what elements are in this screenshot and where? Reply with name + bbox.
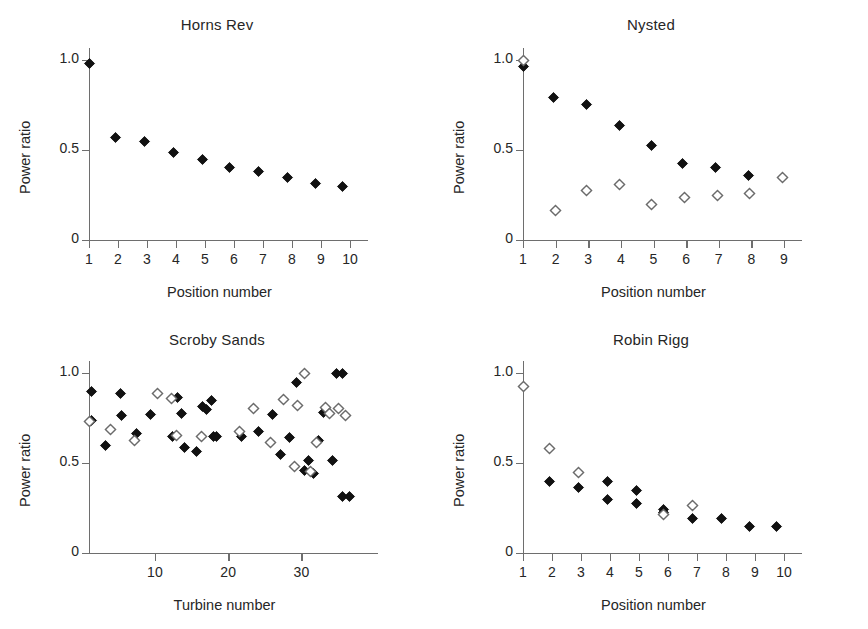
data-point-observed [84, 58, 95, 69]
data-point-filled [646, 140, 657, 151]
panel-nysted: Nysted00.51.0123456789Power ratioPositio… [434, 0, 868, 314]
data-point-open [292, 400, 303, 411]
data-point-open [518, 381, 529, 392]
data-point-observed [139, 136, 150, 147]
data-point-open [248, 403, 259, 414]
data-point-observed [224, 162, 235, 173]
y-tick-label: 0.5 [459, 140, 513, 156]
data-point-observed [197, 154, 208, 165]
data-point-filled [284, 432, 295, 443]
x-tick [588, 241, 589, 248]
data-point-filled [115, 388, 126, 399]
y-tick [82, 373, 89, 374]
data-point-filled [544, 476, 555, 487]
data-point-open [278, 394, 289, 405]
data-point-open [744, 188, 755, 199]
data-point-open [679, 192, 690, 203]
x-tick-label: 10 [764, 564, 804, 580]
y-tick [82, 150, 89, 151]
x-tick [639, 554, 640, 561]
data-point-filled [176, 408, 187, 419]
data-point-open [299, 368, 310, 379]
y-tick-label: 1.0 [25, 363, 79, 379]
x-tick-label: 9 [764, 251, 804, 267]
x-tick [784, 241, 785, 248]
data-point-filled [267, 409, 278, 420]
x-tick [556, 241, 557, 248]
y-axis-line [89, 48, 90, 241]
data-point-filled [716, 513, 727, 524]
data-point-open [687, 500, 698, 511]
y-tick [516, 373, 523, 374]
x-tick [263, 241, 264, 248]
data-point-open [712, 190, 723, 201]
data-point-open [305, 466, 316, 477]
y-tick [82, 553, 89, 554]
y-tick-label: 0.5 [25, 140, 79, 156]
y-tick-label: 1.0 [459, 50, 513, 66]
x-tick [89, 241, 90, 248]
data-point-filled [337, 368, 348, 379]
data-point-filled [631, 485, 642, 496]
x-tick [176, 241, 177, 248]
x-axis-line [523, 553, 802, 554]
data-point-filled [344, 491, 355, 502]
data-point-observed [110, 132, 121, 143]
panel-scroby-sands: Scroby Sands00.51.0102030Power ratioTurb… [0, 315, 434, 629]
data-point-filled [86, 386, 97, 397]
data-point-open [311, 437, 322, 448]
x-tick-label: 30 [281, 564, 321, 580]
y-tick-label: 0 [459, 230, 513, 246]
data-point-filled [303, 455, 314, 466]
panel-title: Scroby Sands [0, 331, 434, 348]
data-point-open [171, 430, 182, 441]
y-tick [516, 240, 523, 241]
x-tick [552, 554, 553, 561]
x-tick [719, 241, 720, 248]
data-point-observed [282, 172, 293, 183]
x-tick [205, 241, 206, 248]
data-point-open [129, 435, 140, 446]
x-axis-line [89, 240, 368, 241]
y-axis-line [523, 48, 524, 241]
data-point-open [581, 185, 592, 196]
x-tick [118, 241, 119, 248]
y-tick-label: 0.5 [25, 453, 79, 469]
y-tick [82, 240, 89, 241]
x-axis-line [523, 240, 802, 241]
data-point-open [289, 461, 300, 472]
data-point-filled [687, 513, 698, 524]
x-tick [654, 241, 655, 248]
x-tick [581, 554, 582, 561]
x-tick [350, 241, 351, 248]
x-axis-label: Turbine number [59, 597, 390, 613]
figure-multi-panel-scatter: Horns Rev00.51.012345678910Power ratioPo… [0, 0, 868, 629]
panel-title: Robin Rigg [434, 331, 868, 348]
panel-horns-rev: Horns Rev00.51.012345678910Power ratioPo… [0, 0, 434, 314]
data-point-open [234, 426, 245, 437]
data-point-filled [677, 158, 688, 169]
x-tick [234, 241, 235, 248]
y-tick-label: 1.0 [25, 50, 79, 66]
y-tick-label: 0 [25, 543, 79, 559]
data-point-observed [168, 147, 179, 158]
x-tick [755, 554, 756, 561]
x-tick [292, 241, 293, 248]
data-point-observed [310, 178, 321, 189]
data-point-open [518, 55, 529, 66]
data-point-filled [602, 494, 613, 505]
data-point-filled [206, 395, 217, 406]
data-point-open [196, 431, 207, 442]
data-point-filled [145, 409, 156, 420]
y-tick-label: 0 [459, 543, 513, 559]
x-tick [155, 554, 156, 561]
panel-title: Nysted [434, 16, 868, 33]
x-axis-label: Position number [493, 284, 814, 300]
data-point-open [544, 443, 555, 454]
x-tick [523, 241, 524, 248]
y-tick [516, 463, 523, 464]
data-point-filled [573, 482, 584, 493]
x-tick [610, 554, 611, 561]
data-point-open [152, 388, 163, 399]
data-point-filled [614, 120, 625, 131]
